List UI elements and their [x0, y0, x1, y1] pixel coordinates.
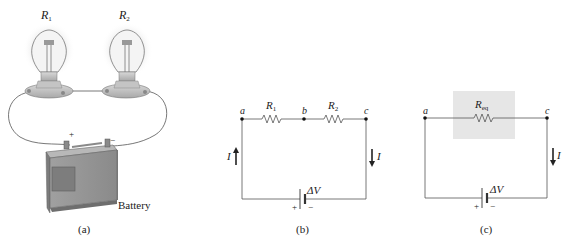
battery-plus-label: + — [69, 130, 74, 139]
resistor-req-label: Req — [475, 99, 488, 112]
series-circuit-figure: R1 R2 + − Battery (a) a b c R1 R2 I I ΔV… — [0, 0, 563, 239]
source-plus-label: + — [292, 203, 297, 212]
node-a-dot — [240, 117, 244, 121]
panel-b-battery-symbol — [300, 189, 305, 209]
battery-label: Battery — [118, 200, 150, 211]
current-arrow-up-icon — [233, 147, 239, 165]
source-delta-v-label: ΔV — [307, 185, 320, 196]
current-label-right: I — [557, 150, 561, 161]
resistor-r1-icon — [262, 115, 281, 123]
current-arrow-down-icon — [550, 148, 556, 166]
source-plus-label: + — [474, 202, 479, 211]
resistor-r2-label: R2 — [328, 100, 338, 113]
light-bulb-r2-icon — [101, 22, 153, 98]
car-battery-icon — [46, 139, 118, 213]
node-c-dot — [364, 117, 368, 121]
node-c-label: c — [364, 106, 368, 116]
node-a-label: a — [423, 106, 428, 116]
panel-b-schematic — [242, 115, 366, 199]
source-delta-v-label: ΔV — [490, 184, 503, 195]
panel-a-illustration — [9, 22, 167, 213]
wire — [113, 91, 167, 146]
source-minus-label: − — [308, 203, 313, 212]
battery-minus-label: − — [110, 136, 115, 145]
caption-c: (c) — [480, 224, 492, 235]
node-b-dot — [302, 117, 306, 121]
source-minus-label: − — [490, 202, 495, 211]
node-c-label: c — [545, 106, 549, 116]
node-c-dot — [545, 116, 549, 120]
wire — [9, 92, 70, 145]
caption-b: (b) — [296, 224, 309, 235]
caption-a: (a) — [78, 224, 90, 235]
current-label-right: I — [377, 151, 381, 162]
light-bulb-r1-icon — [23, 22, 75, 98]
bulb-r2-label: R2 — [119, 9, 130, 23]
node-b-label: b — [302, 106, 307, 116]
bulb-r1-label: R1 — [41, 9, 52, 23]
resistor-r2-icon — [324, 115, 343, 123]
node-a-label: a — [240, 106, 245, 116]
panel-c-battery-symbol — [482, 188, 487, 208]
node-a-dot — [423, 116, 427, 120]
current-arrow-down-icon — [369, 149, 375, 167]
current-label-left: I — [227, 151, 231, 162]
resistor-r1-label: R1 — [266, 100, 276, 113]
